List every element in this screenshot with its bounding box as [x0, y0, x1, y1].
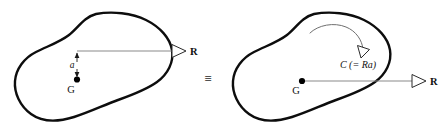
force-equivalence-figure: R a G ≡ C (= Ra) G R [0, 0, 446, 134]
center-of-gravity-dot-right [299, 78, 305, 84]
center-of-gravity-dot-left [74, 76, 80, 82]
dimension-arrowhead-up [75, 53, 80, 59]
left-diagram-group: R a G [15, 13, 198, 121]
force-label-left: R [190, 46, 198, 57]
figure-container: R a G ≡ C (= Ra) G R [0, 0, 446, 134]
moment-arc [310, 25, 363, 49]
right-diagram-group: C (= Ra) G R [233, 13, 438, 121]
centroid-label-left: G [67, 84, 75, 95]
equivalence-symbol: ≡ [204, 71, 211, 86]
rigid-body-outline-left [15, 13, 172, 121]
force-arrowhead-left [172, 45, 186, 58]
force-arrowhead-right [412, 75, 426, 88]
moment-arrowhead [358, 46, 370, 59]
force-label-right: R [430, 76, 438, 87]
centroid-label-right: G [292, 85, 300, 96]
moment-label: C (= Ra) [340, 59, 377, 71]
dimension-label-a: a [70, 60, 75, 70]
